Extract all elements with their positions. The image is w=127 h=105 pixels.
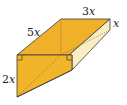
label-length-3x: 3x (82, 5, 96, 18)
front-face (17, 55, 72, 97)
label-height-2x: 2x (2, 73, 16, 86)
label-depth-x: x (113, 17, 120, 30)
prism-diagram: 5x 3x x 2x (0, 0, 127, 105)
label-slant-5x: 5x (27, 26, 41, 39)
